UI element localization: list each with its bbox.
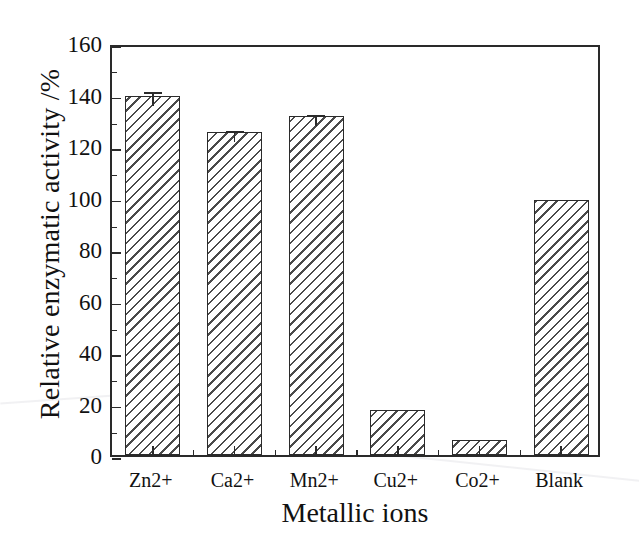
x-tick-label-mn2plus: Mn2+ bbox=[273, 470, 355, 490]
y-tick-label-160: 160 bbox=[40, 33, 102, 56]
x-tick-label-blank: Blank bbox=[518, 470, 600, 490]
x-minor-tick bbox=[520, 450, 522, 455]
error-bar-cap-ca2plus bbox=[226, 131, 244, 133]
x-tick-ca2plus bbox=[234, 446, 236, 455]
x-tick-co2plus bbox=[479, 446, 481, 455]
y-tick-80 bbox=[112, 252, 121, 254]
y-tick-0 bbox=[112, 458, 121, 460]
x-tick-mn2plus bbox=[315, 446, 317, 455]
y-tick-label-140: 140 bbox=[40, 85, 102, 108]
x-tick-label-ca2plus: Ca2+ bbox=[192, 470, 274, 490]
x-minor-tick bbox=[356, 450, 358, 455]
error-bar-cap-zn2plus bbox=[144, 92, 162, 94]
bar-ca2plus bbox=[207, 132, 262, 455]
x-tick-blank bbox=[560, 446, 562, 455]
x-minor-tick bbox=[193, 450, 195, 455]
bar-zn2plus bbox=[125, 96, 180, 455]
y-tick-label-0: 0 bbox=[40, 445, 102, 468]
y-tick-label-60: 60 bbox=[40, 291, 102, 314]
x-tick-label-cu2plus: Cu2+ bbox=[355, 470, 437, 490]
y-tick-40 bbox=[112, 355, 121, 357]
x-axis-title: Metallic ions bbox=[110, 497, 600, 529]
x-minor-tick bbox=[275, 450, 277, 455]
y-minor-tick bbox=[112, 72, 117, 73]
y-tick-140 bbox=[112, 98, 121, 100]
y-minor-tick bbox=[112, 381, 117, 382]
x-tick-zn2plus bbox=[152, 446, 154, 455]
x-tick-label-co2plus: Co2+ bbox=[437, 470, 519, 490]
plot-area bbox=[110, 45, 600, 457]
y-minor-tick bbox=[112, 278, 117, 279]
y-tick-label-40: 40 bbox=[40, 342, 102, 365]
y-tick-60 bbox=[112, 304, 121, 306]
y-minor-tick bbox=[112, 433, 117, 434]
bar-blank bbox=[534, 200, 589, 455]
error-bar-ca2plus bbox=[234, 131, 236, 142]
y-tick-120 bbox=[112, 149, 121, 151]
x-minor-tick bbox=[438, 450, 440, 455]
y-tick-label-80: 80 bbox=[40, 239, 102, 262]
y-tick-label-120: 120 bbox=[40, 136, 102, 159]
y-tick-label-20: 20 bbox=[40, 394, 102, 417]
y-tick-20 bbox=[112, 407, 121, 409]
y-minor-tick bbox=[112, 175, 117, 176]
error-bar-zn2plus bbox=[152, 92, 154, 106]
y-tick-160 bbox=[112, 46, 121, 48]
bar-mn2plus bbox=[289, 116, 344, 455]
x-tick-label-zn2plus: Zn2+ bbox=[110, 470, 192, 490]
y-minor-tick bbox=[112, 124, 117, 125]
x-tick-cu2plus bbox=[397, 446, 399, 455]
y-minor-tick bbox=[112, 227, 117, 228]
error-bar-mn2plus bbox=[315, 115, 317, 127]
y-minor-tick bbox=[112, 330, 117, 331]
y-tick-label-100: 100 bbox=[40, 188, 102, 211]
y-tick-100 bbox=[112, 201, 121, 203]
error-bar-cap-mn2plus bbox=[307, 115, 325, 117]
